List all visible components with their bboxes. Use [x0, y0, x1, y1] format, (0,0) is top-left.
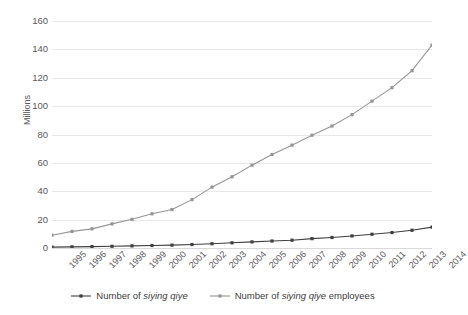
x-axis-tick-label: 2010	[367, 249, 388, 270]
y-axis-tick-label: 140	[8, 43, 48, 54]
series-line	[52, 227, 432, 247]
series-marker	[210, 186, 213, 189]
series-marker	[350, 234, 353, 237]
x-axis-tick-label: 2004	[247, 249, 268, 270]
y-axis-tick-label: 80	[8, 129, 48, 140]
y-axis-tick-label: 20	[8, 214, 48, 225]
x-axis-tick-label: 2003	[227, 249, 248, 270]
series-marker	[90, 227, 93, 230]
series-marker	[70, 230, 73, 233]
x-axis-tick-label: 1995	[67, 249, 88, 270]
legend-item[interactable]: Number of siying qiye employees	[210, 290, 375, 301]
series-marker	[410, 229, 413, 232]
x-axis-tick-label: 2007	[307, 249, 328, 270]
series-marker	[350, 113, 353, 116]
series-marker	[310, 237, 313, 240]
series-marker	[130, 218, 133, 221]
legend-item[interactable]: Number of siying qiye	[71, 290, 187, 301]
x-axis-tick-label: 2009	[347, 249, 368, 270]
series-marker	[410, 69, 413, 72]
legend-item-label: Number of siying qiye	[96, 290, 187, 301]
series-marker	[150, 244, 153, 247]
series-marker	[290, 144, 293, 147]
x-axis-tick-label: 2008	[327, 249, 348, 270]
series-marker	[170, 208, 173, 211]
x-axis-tick-label: 1998	[127, 249, 148, 270]
series-marker	[110, 245, 113, 248]
series-marker	[230, 175, 233, 178]
series-marker	[330, 236, 333, 239]
series-marker	[130, 244, 133, 247]
legend-marker-icon	[71, 292, 91, 300]
series-marker	[290, 239, 293, 242]
series-marker	[370, 233, 373, 236]
x-axis-tick-label: 2006	[287, 249, 308, 270]
series-marker	[90, 245, 93, 248]
series-marker	[210, 242, 213, 245]
chart-legend: Number of siying qiyeNumber of siying qi…	[0, 290, 446, 301]
x-axis-tick-label: 1996	[87, 249, 108, 270]
series-marker	[370, 100, 373, 103]
x-axis-ticks: 1995199619971998199920002001200220032004…	[52, 249, 432, 289]
series-marker	[310, 134, 313, 137]
x-axis-tick-label: 2002	[207, 249, 228, 270]
y-axis-tick-label: 60	[8, 157, 48, 168]
x-axis-tick-label: 2000	[167, 249, 188, 270]
x-axis-tick-label: 1999	[147, 249, 168, 270]
series-marker	[150, 212, 153, 215]
series-marker	[170, 244, 173, 247]
y-axis-tick-label: 120	[8, 72, 48, 83]
legend-item-label: Number of siying qiye employees	[235, 290, 375, 301]
series-line	[52, 45, 432, 235]
series-marker	[390, 86, 393, 89]
series-marker	[110, 222, 113, 225]
x-axis-tick-label: 2001	[187, 249, 208, 270]
series-marker	[270, 239, 273, 242]
series-marker	[270, 153, 273, 156]
series-marker	[250, 240, 253, 243]
series-marker	[330, 124, 333, 127]
series-marker	[52, 245, 54, 248]
x-axis-tick-label: 1997	[107, 249, 128, 270]
series-marker	[430, 44, 432, 47]
series-marker	[190, 243, 193, 246]
series-marker	[250, 164, 253, 167]
series-marker	[70, 245, 73, 248]
series-marker	[52, 234, 54, 237]
series-layer	[52, 21, 432, 248]
series-marker	[230, 241, 233, 244]
y-axis-tick-label: 40	[8, 185, 48, 196]
y-axis-tick-label: 0	[8, 242, 48, 253]
x-axis-tick-label: 2014	[447, 249, 468, 270]
series-marker	[190, 198, 193, 201]
series-marker	[430, 226, 432, 229]
x-axis-tick-label: 2005	[267, 249, 288, 270]
legend-marker-icon	[210, 292, 230, 300]
series-marker	[390, 231, 393, 234]
y-axis-tick-label: 160	[8, 15, 48, 26]
x-axis-tick-label: 2011	[387, 249, 408, 270]
x-axis-tick-label: 2013	[427, 249, 448, 270]
x-axis-tick-label: 2012	[407, 249, 428, 270]
y-axis-tick-label: 100	[8, 100, 48, 111]
